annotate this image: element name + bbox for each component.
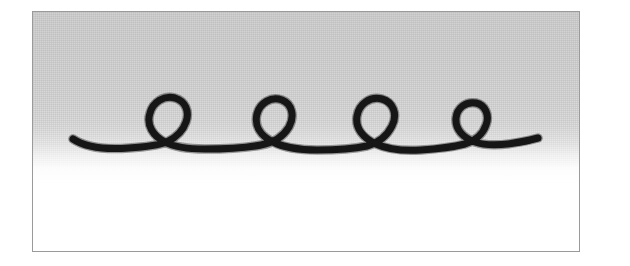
figure-root: Looped cursive stroke exercise	[0, 0, 630, 266]
ink-stroke-drawing	[33, 12, 580, 252]
scanned-plate	[32, 11, 580, 252]
